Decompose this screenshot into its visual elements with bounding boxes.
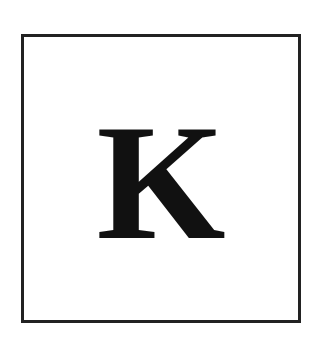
letter-card: K [21,34,301,323]
letter-glyph: K [24,37,298,320]
